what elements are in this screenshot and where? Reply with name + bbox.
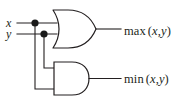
or-gate-body — [53, 10, 96, 48]
and-gate-icon — [54, 62, 121, 95]
output-max-function: max — [124, 24, 146, 38]
output-label-max: max(x,y) — [124, 25, 171, 38]
input-label-y: y — [6, 28, 11, 40]
output-min-close-paren: ) — [165, 72, 169, 86]
and-gate-body — [54, 62, 89, 95]
junction-dot-y — [40, 30, 47, 37]
logic-circuit-figure: x y max(x,y) min(x,y) — [0, 0, 177, 104]
output-max-close-paren: ) — [167, 24, 171, 38]
or-gate-icon — [53, 10, 121, 48]
output-label-min: min(x,y) — [124, 73, 169, 86]
junction-dot-x — [31, 19, 38, 26]
output-min-function: min — [124, 72, 144, 86]
wire-branch-y-to-and — [44, 34, 54, 68]
circuit-diagram-svg — [0, 0, 177, 104]
